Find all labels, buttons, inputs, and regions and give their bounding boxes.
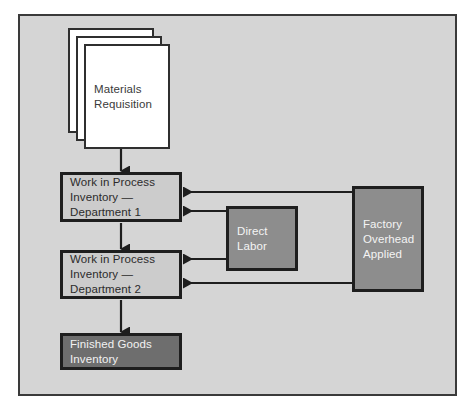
node-finished-goods bbox=[60, 333, 182, 370]
cost-flow-diagram: Materials Requisition Work in Process In… bbox=[0, 0, 475, 410]
materials-requisition-sheet-front bbox=[84, 44, 170, 149]
node-wip-dept1 bbox=[60, 172, 182, 222]
node-factory-overhead-applied bbox=[352, 186, 424, 292]
node-direct-labor bbox=[226, 206, 298, 271]
node-wip-dept2 bbox=[60, 250, 182, 299]
